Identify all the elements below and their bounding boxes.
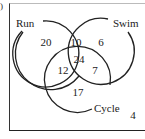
region-run-only: 20 bbox=[41, 36, 53, 48]
region-run-cycle: 12 bbox=[58, 64, 69, 76]
region-swim-cycle: 7 bbox=[92, 64, 98, 76]
region-cycle-only: 17 bbox=[73, 86, 85, 98]
set-label-cycle: Cycle bbox=[94, 102, 120, 114]
region-run-swim: 10 bbox=[71, 36, 83, 48]
region-all-three: 24 bbox=[74, 53, 86, 65]
region-swim-only: 6 bbox=[98, 36, 104, 48]
region-outside: 4 bbox=[130, 109, 136, 121]
set-label-swim: Swim bbox=[113, 17, 139, 29]
set-label-run: Run bbox=[16, 17, 35, 29]
venn-diagram: Run Swim Cycle 20 6 10 24 12 7 17 4 bbox=[0, 0, 145, 139]
